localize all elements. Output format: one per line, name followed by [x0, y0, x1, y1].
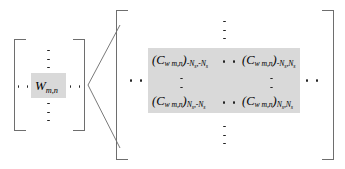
ellipsis-dot	[316, 79, 318, 82]
right-matrix-ellipsis-top	[221, 17, 227, 43]
covariance-entry-bottom-left: (Cw m,n)Ns,-Ns	[152, 95, 206, 111]
ellipsis-dot	[270, 78, 273, 79]
block-ellipsis-bottom-row	[219, 99, 239, 105]
right-matrix-ellipsis-bottom	[221, 122, 227, 148]
covariance-row-index: Ns,Ns	[277, 100, 293, 109]
ellipsis-dot	[223, 135, 226, 136]
ellipsis-dot	[223, 21, 226, 22]
ellipsis-dot	[223, 126, 226, 127]
covariance-entry-top-right: (Cw m,n)-Ns,Ns	[242, 54, 296, 70]
covariance-symbol: (C	[152, 53, 165, 67]
covariance-row-index: Ns,-Ns	[187, 100, 206, 109]
right-matrix-ellipsis-right	[302, 77, 322, 83]
ellipsis-dot	[180, 78, 183, 79]
covariance-symbol: (C	[242, 94, 255, 108]
covariance-symbol-subscript: w m,n	[165, 100, 183, 109]
ellipsis-dot	[223, 38, 226, 39]
ellipsis-dot	[223, 60, 225, 63]
ellipsis-dot	[306, 79, 308, 82]
right-matrix-ellipsis-left	[126, 77, 146, 83]
ellipsis-dot	[233, 101, 235, 104]
covariance-row-index: -Ns,-Ns	[187, 59, 208, 68]
ellipsis-dot	[223, 143, 226, 144]
covariance-row-index: -Ns,Ns	[277, 59, 296, 68]
figure-canvas: Wm,n (Cw m,n)-Ns,-Ns (Cw m,n)-Ns,Ns (Cw …	[0, 0, 345, 169]
right-matrix-close-bracket	[322, 10, 334, 160]
ellipsis-dot	[233, 60, 235, 63]
block-ellipsis-top-row	[219, 58, 239, 64]
ellipsis-dot	[140, 79, 142, 82]
covariance-entry-bottom-right: (Cw m,n)Ns,Ns	[242, 95, 293, 111]
block-ellipsis-right-column	[268, 74, 274, 92]
ellipsis-dot	[223, 30, 226, 31]
ellipsis-dot	[130, 79, 132, 82]
covariance-symbol-subscript: w m,n	[165, 59, 183, 68]
ellipsis-dot	[180, 87, 183, 88]
covariance-symbol: (C	[242, 53, 255, 67]
covariance-symbol-subscript: w m,n	[255, 100, 273, 109]
ellipsis-dot	[223, 101, 225, 104]
right-matrix-open-bracket	[116, 10, 128, 160]
covariance-entry-top-left: (Cw m,n)-Ns,-Ns	[152, 54, 208, 70]
covariance-symbol-subscript: w m,n	[255, 59, 273, 68]
block-ellipsis-left-column	[178, 74, 184, 92]
covariance-symbol: (C	[152, 94, 165, 108]
ellipsis-dot	[270, 87, 273, 88]
